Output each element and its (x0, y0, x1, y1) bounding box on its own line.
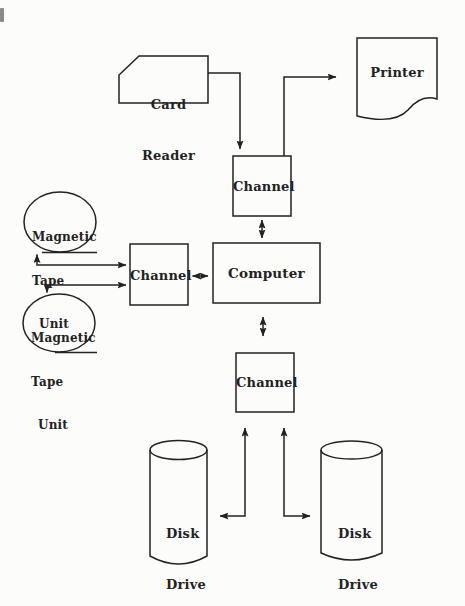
tape-unit-top-label-line1: Magnetic (32, 230, 97, 245)
edge-channeltop-to-printer (284, 77, 336, 156)
disk-drive-left-label-line1: Disk (166, 525, 206, 542)
disk-drive-left-top (150, 441, 207, 460)
computer-label: Computer (213, 265, 320, 282)
printer-label: Printer (357, 64, 437, 81)
card-reader-label-line1: Card (129, 96, 208, 113)
channel-left-label: Channel (130, 267, 188, 284)
disk-drive-left-label: Disk Drive (166, 491, 206, 606)
tape-unit-bottom-label: Magnetic Tape Unit (31, 302, 96, 462)
channel-top-label: Channel (233, 178, 291, 195)
disk-drive-right-label-line1: Disk (338, 525, 378, 542)
card-reader-label: Card Reader (129, 62, 208, 198)
tape-unit-bottom-label-line1: Magnetic (31, 331, 96, 346)
tape-unit-bottom-label-line3: Unit (31, 418, 96, 433)
disk-drive-right-label: Disk Drive (338, 491, 378, 606)
disk-drive-right-label-line2: Drive (338, 576, 378, 593)
edge-cardreader-to-channeltop (208, 73, 240, 149)
channel-bottom-label: Channel (236, 374, 294, 391)
tape-unit-bottom-label-line2: Tape (31, 375, 96, 390)
disk-drive-left-label-line2: Drive (166, 576, 206, 593)
diagram-canvas: Card Reader Printer Channel Channel Comp… (0, 0, 465, 606)
edge-channelbottom-diskleft (220, 428, 245, 516)
disk-drive-right-top (321, 441, 382, 459)
edge-channelbottom-diskright (284, 428, 310, 516)
tape-unit-top-label-line2: Tape (32, 274, 97, 289)
card-reader-label-line2: Reader (129, 147, 208, 164)
